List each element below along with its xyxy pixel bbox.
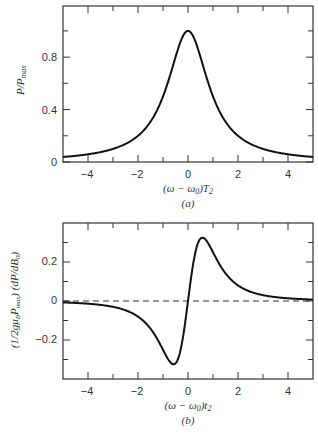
- b-xtick-0: 0: [185, 385, 191, 397]
- a-xtick--2: −2: [131, 168, 144, 180]
- panel-a-frame: [63, 6, 313, 162]
- a-xtick-2: 2: [235, 168, 241, 180]
- a-xtick-4: 4: [285, 168, 291, 180]
- b-xtick--4: −4: [81, 385, 94, 397]
- b-ylabel: (1/2gμBPmax) (dP/dB0): [8, 252, 22, 349]
- a-ytick-0.4: 0.4: [42, 104, 57, 116]
- panel-a: 0.8 0.4 0 −4 −2 0 2 4 (ω − ω0)T2 (a) P/P…: [14, 6, 313, 210]
- b-xtick-2: 2: [235, 385, 241, 397]
- b-xlabel: (ω − ω0)t2: [165, 399, 212, 413]
- a-xlabel: (ω − ω0)T2: [163, 182, 213, 196]
- panel-b-label: (b): [182, 414, 195, 427]
- a-ylabel: P/Pmax: [14, 65, 28, 96]
- a-xtick-0: 0: [185, 168, 191, 180]
- panel-b: 0.2 0 −0.2 −4 −2 0 2 4 (ω − ω0)t2 (b) (1…: [8, 223, 313, 427]
- a-ytick-0.8: 0.8: [42, 51, 57, 63]
- panel-a-ticks: [63, 6, 313, 162]
- a-xtick--4: −4: [81, 168, 94, 180]
- b-ytick--0.2: −0.2: [35, 333, 57, 345]
- panel-a-curve: [63, 31, 313, 157]
- b-ytick-0: 0: [51, 294, 57, 306]
- figure: 0.8 0.4 0 −4 −2 0 2 4 (ω − ω0)T2 (a) P/P…: [0, 0, 318, 434]
- panel-a-label: (a): [182, 197, 195, 210]
- b-xtick--2: −2: [131, 385, 144, 397]
- b-xtick-4: 4: [285, 385, 291, 397]
- b-ytick-0.2: 0.2: [42, 255, 57, 267]
- a-ytick-0: 0: [51, 156, 57, 168]
